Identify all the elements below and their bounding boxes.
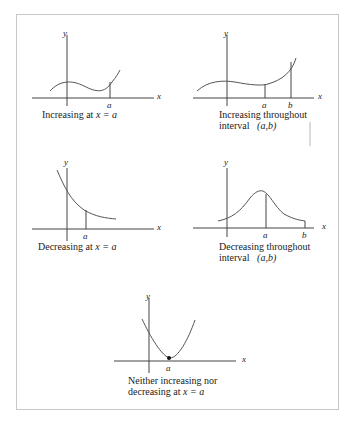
a-label: a xyxy=(263,230,268,240)
graph-neither xyxy=(114,298,236,373)
y-axis-label: y xyxy=(63,28,67,38)
graphs-svg xyxy=(0,0,350,424)
a-label: a xyxy=(166,363,171,373)
graph-decreasing-interval xyxy=(193,168,314,237)
a-label: a xyxy=(83,231,88,241)
y-axis-label: y xyxy=(64,157,68,167)
x-axis-label: x xyxy=(157,91,161,101)
point-a-dot xyxy=(167,356,171,360)
caption-increasing-interval: Increasing throughoutinterval (a,b) xyxy=(219,109,307,131)
x-axis-label: x xyxy=(318,91,322,101)
caption-increasing-at-a: Increasing at x = a xyxy=(42,109,117,120)
y-axis-label: y xyxy=(224,157,228,167)
graph-decreasing-at-a xyxy=(32,168,154,241)
x-axis-label: x xyxy=(322,221,326,231)
caption-decreasing-interval: Decreasing throughoutinterval (a,b) xyxy=(219,241,310,263)
y-axis-label: y xyxy=(146,291,150,301)
caption-decreasing-at-a: Decreasing at x = a xyxy=(38,241,116,252)
caption-neither: Neither increasing nordecreasing at x = … xyxy=(128,375,217,397)
x-axis-label: x xyxy=(242,354,246,364)
x-axis-label: x xyxy=(157,222,161,232)
b-label: b xyxy=(302,230,307,240)
y-axis-label: y xyxy=(224,28,228,38)
graph-increasing-at-a xyxy=(32,35,154,106)
